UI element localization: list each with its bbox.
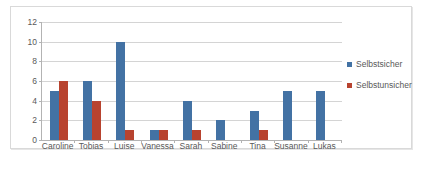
bar-groups xyxy=(42,22,342,140)
bar-group xyxy=(109,22,142,140)
bar-group xyxy=(242,22,275,140)
x-axis-tick-mark xyxy=(341,140,342,143)
bar-group xyxy=(309,22,342,140)
bar[interactable] xyxy=(59,81,68,140)
x-axis: CarolineTobiasLuiseVanessaSarahSabineTin… xyxy=(41,141,341,151)
y-axis-tick-label: 2 xyxy=(15,116,37,124)
bar[interactable] xyxy=(250,111,259,141)
legend-label: Selbstunsicher xyxy=(356,80,412,90)
x-axis-tick-label: Caroline xyxy=(41,141,74,151)
bar[interactable] xyxy=(83,81,92,140)
bar-group xyxy=(75,22,108,140)
bar[interactable] xyxy=(125,130,134,140)
bar[interactable] xyxy=(259,130,268,140)
bar[interactable] xyxy=(316,91,325,140)
y-axis-tick-label: 10 xyxy=(15,38,37,46)
bar-group xyxy=(175,22,208,140)
legend-swatch-icon xyxy=(347,83,352,88)
x-axis-tick-label: Lukas xyxy=(308,141,341,151)
bar[interactable] xyxy=(216,120,225,140)
legend-item[interactable]: Selbstsicher xyxy=(347,59,413,69)
bar[interactable] xyxy=(183,101,192,140)
chart-legend: SelbstsicherSelbstunsicher xyxy=(347,59,413,101)
legend-item[interactable]: Selbstunsicher xyxy=(347,80,413,90)
bar[interactable] xyxy=(192,130,201,140)
y-axis-tick-label: 0 xyxy=(15,136,37,144)
y-axis-tick-label: 6 xyxy=(15,77,37,85)
y-axis-tick-label: 8 xyxy=(15,57,37,65)
bar-group xyxy=(275,22,308,140)
legend-swatch-icon xyxy=(347,62,352,67)
bar[interactable] xyxy=(50,91,59,140)
x-axis-tick-label: Luise xyxy=(108,141,141,151)
legend-label: Selbstsicher xyxy=(356,59,402,69)
bar[interactable] xyxy=(92,101,101,140)
y-axis-tick-label: 12 xyxy=(15,18,37,26)
plot-area xyxy=(41,22,342,140)
x-axis-tick-label: Susanne xyxy=(274,141,308,151)
x-axis-tick-label: Tina xyxy=(241,141,274,151)
chart-container: 121086420 CarolineTobiasLuiseVanessaSara… xyxy=(10,6,412,149)
bar-group xyxy=(42,22,75,140)
x-axis-tick-label: Sabine xyxy=(208,141,241,151)
bar[interactable] xyxy=(283,91,292,140)
bar-group xyxy=(142,22,175,140)
plot-wrapper: 121086420 CarolineTobiasLuiseVanessaSara… xyxy=(11,7,341,150)
bar[interactable] xyxy=(159,130,168,140)
bar[interactable] xyxy=(150,130,159,140)
bar[interactable] xyxy=(116,42,125,140)
x-axis-tick-label: Tobias xyxy=(74,141,107,151)
y-axis: 121086420 xyxy=(13,7,37,150)
x-axis-tick-label: Vanessa xyxy=(141,141,174,151)
bar-group xyxy=(209,22,242,140)
y-axis-tick-label: 4 xyxy=(15,97,37,105)
x-axis-tick-label: Sarah xyxy=(174,141,207,151)
